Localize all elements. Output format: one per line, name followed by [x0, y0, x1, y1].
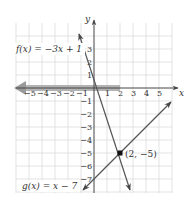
y-tick: −2 — [80, 110, 92, 119]
y-tick: 3 — [87, 45, 92, 54]
line-g — [83, 102, 171, 190]
y-axis-label: y — [84, 14, 91, 24]
y-tick: −4 — [80, 136, 92, 145]
x-tick: 3 — [131, 89, 136, 98]
y-tick: −6 — [80, 162, 92, 171]
coordinate-plane: x y −5 −4 −3 −2 −1 1 2 3 4 5 3 2 1 −1 −2… — [0, 0, 192, 208]
x-tick: 2 — [118, 89, 123, 98]
intersection-point — [118, 151, 123, 156]
y-tick-labels: 3 2 1 −1 −2 −3 −4 −5 −6 −7 — [80, 45, 92, 184]
f-label: f(x) = −3x + 1 — [15, 44, 82, 54]
y-tick: −1 — [80, 97, 92, 106]
x-tick: 4 — [144, 89, 149, 98]
x-tick: −4 — [37, 89, 49, 98]
y-tick: −5 — [80, 149, 92, 158]
x-tick: −5 — [24, 89, 36, 98]
x-tick: −3 — [50, 89, 62, 98]
x-tick: 5 — [157, 89, 162, 98]
x-tick: 1 — [105, 89, 110, 98]
y-tick: −3 — [80, 123, 92, 132]
point-label: (2, −5) — [125, 149, 157, 159]
x-axis-label: x — [179, 88, 184, 98]
x-tick: −2 — [63, 89, 75, 98]
g-label: g(x) = x − 7 — [22, 181, 77, 191]
